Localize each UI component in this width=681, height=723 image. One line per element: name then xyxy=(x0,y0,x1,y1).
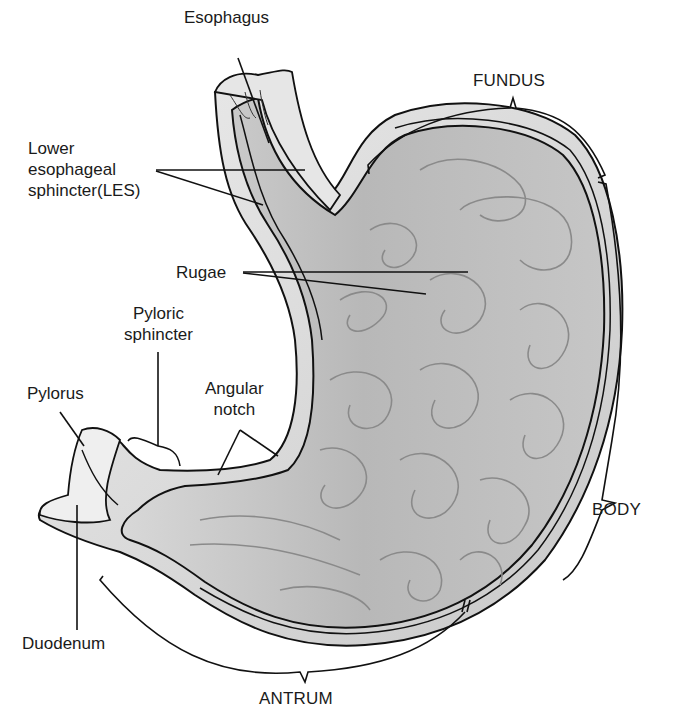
label-angular-notch: Angular notch xyxy=(205,378,264,420)
label-les-line1: Lower xyxy=(28,138,140,159)
label-lower-esophageal-sphincter: Lower esophageal sphincter(LES) xyxy=(28,138,140,201)
stomach-diagram xyxy=(0,0,681,723)
label-angular-line1: Angular xyxy=(205,378,264,399)
label-pyloric-line1: Pyloric xyxy=(124,303,193,324)
label-body: BODY xyxy=(592,499,641,520)
label-pyloric-sphincter: Pyloric sphincter xyxy=(124,303,193,345)
label-pyloric-line2: sphincter xyxy=(124,324,193,345)
label-duodenum: Duodenum xyxy=(22,633,105,654)
label-les-line3: sphincter(LES) xyxy=(28,180,140,201)
label-pylorus: Pylorus xyxy=(27,383,84,404)
label-fundus: FUNDUS xyxy=(473,70,545,91)
label-angular-line2: notch xyxy=(205,399,264,420)
label-rugae: Rugae xyxy=(176,262,226,283)
label-antrum: ANTRUM xyxy=(259,688,333,709)
label-les-line2: esophageal xyxy=(28,159,140,180)
label-esophagus: Esophagus xyxy=(184,7,269,28)
